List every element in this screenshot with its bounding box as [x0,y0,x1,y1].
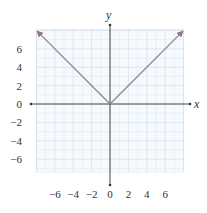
y-tick-label: −4 [10,135,22,147]
y-tick-label: 2 [17,80,23,92]
x-tick-label: −2 [86,188,98,200]
y-tick-label: 0 [17,98,23,110]
x-tick-label: 4 [144,188,150,200]
axis-end-dot [30,103,33,106]
y-tick-label: −2 [10,116,22,128]
absolute-value-chart: −6−4−202466420−2−4−6 x y [0,0,207,213]
y-axis-label: y [105,8,112,22]
y-tick-label: −6 [10,153,22,165]
x-axis-label: x [193,97,200,111]
x-tick-label: −4 [67,188,79,200]
x-tick-label: 0 [107,188,113,200]
x-tick-label: 6 [162,188,168,200]
y-tick-label: 6 [17,43,23,55]
axis-end-dot [109,24,112,27]
axis-end-dot [189,103,192,106]
axis-end-dot [109,184,112,187]
x-tick-label: 2 [126,188,132,200]
x-tick-label: −6 [49,188,61,200]
y-tick-label: 4 [17,61,23,73]
